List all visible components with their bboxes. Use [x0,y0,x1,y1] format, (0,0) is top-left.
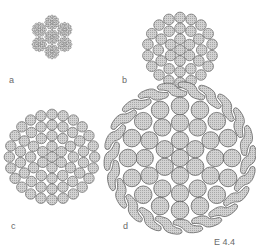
panel-b-bundle [143,12,218,88]
panel-c-bundle [4,109,100,205]
label-a: a [9,76,14,85]
panel-a-wire-rope [32,15,72,59]
figure-id: E 4.4 [214,238,235,247]
figure-canvas [0,0,256,251]
label-d: d [123,222,128,231]
panel-d-locked-coil [104,82,256,234]
label-b: b [122,76,127,85]
label-c: c [11,222,16,231]
